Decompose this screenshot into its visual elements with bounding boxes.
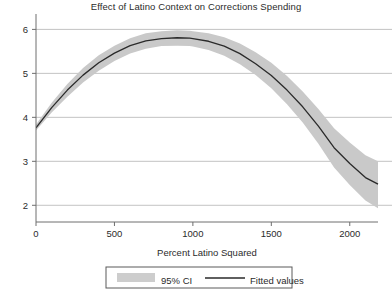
x-tick-label: 500 xyxy=(107,228,123,239)
legend-fitted-label: Fitted values xyxy=(250,275,304,286)
y-tick-label: 5 xyxy=(23,68,28,79)
legend-ci-swatch xyxy=(117,273,155,282)
fitted-values-line xyxy=(36,38,378,184)
chart-container: Effect of Latino Context on Corrections … xyxy=(0,0,392,297)
y-tick-label: 6 xyxy=(23,24,28,35)
y-tick-label: 2 xyxy=(23,200,28,211)
legend-box: 95% CI Fitted values xyxy=(106,267,304,288)
ci-band-area xyxy=(36,30,378,208)
y-tick-label: 4 xyxy=(23,112,28,123)
x-tick-label: 1500 xyxy=(261,228,282,239)
gridlines-group xyxy=(36,29,392,205)
x-tick-label: 1000 xyxy=(182,228,203,239)
x-axis-title: Percent Latino Squared xyxy=(157,247,257,258)
y-axis-ticks: 23456 xyxy=(23,24,36,211)
legend-ci-label: 95% CI xyxy=(161,275,192,286)
x-axis-ticks: 0500100015002000 xyxy=(33,222,360,239)
x-tick-label: 2000 xyxy=(339,228,360,239)
x-tick-label: 0 xyxy=(33,228,38,239)
chart-svg: 23456 0500100015002000 Percent Latino Sq… xyxy=(0,0,392,297)
y-tick-label: 3 xyxy=(23,156,28,167)
